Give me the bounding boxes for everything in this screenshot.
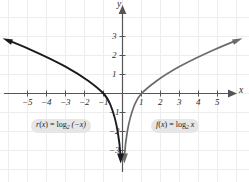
x-tick-label-neg1: −1: [98, 98, 109, 107]
right-curve-log-word: log: [176, 120, 186, 129]
y-tick-label-neg3: −3: [109, 146, 120, 155]
y-tick-label-2: 2: [112, 51, 117, 60]
y-axis-label: y: [117, 0, 121, 10]
x-axis-label: x: [239, 86, 243, 96]
x-tick-label-5: 5: [215, 98, 220, 107]
x-tick-label-4: 4: [196, 98, 201, 107]
right-curve-log-base: 2: [186, 124, 189, 130]
right-curve-label: f(x) = log2 x: [151, 119, 199, 133]
left-curve-argument: (−x): [72, 120, 86, 129]
right-curve-close-paren: ) =: [164, 120, 175, 129]
log-function-graph-figure: −5 −4 −3 −2 −1 1 2 3 4 5 3 2 1 −1 −2 −3 …: [0, 0, 249, 182]
left-curve-log-base: 2: [67, 124, 70, 130]
x-tick-label-neg4: −4: [41, 98, 52, 107]
left-curve-label: r(x) = log2 (−x): [31, 119, 91, 133]
plot-area: [0, 0, 249, 182]
left-curve-close-paren: ) =: [45, 120, 56, 129]
x-tick-label-3: 3: [177, 98, 182, 107]
x-tick-label-neg3: −3: [60, 98, 71, 107]
right-curve-argument: x: [191, 120, 195, 129]
left-curve-log-word: log: [57, 120, 67, 129]
y-tick-label-neg1: −1: [109, 108, 120, 117]
x-tick-label-2: 2: [158, 98, 163, 107]
y-tick-label-neg2: −2: [109, 127, 120, 136]
y-tick-label-1: 1: [112, 70, 117, 79]
y-tick-label-3: 3: [112, 32, 117, 41]
x-tick-label-1: 1: [139, 98, 144, 107]
x-tick-label-neg2: −2: [79, 98, 90, 107]
x-tick-label-neg5: −5: [22, 98, 33, 107]
x-axis: [4, 90, 237, 98]
